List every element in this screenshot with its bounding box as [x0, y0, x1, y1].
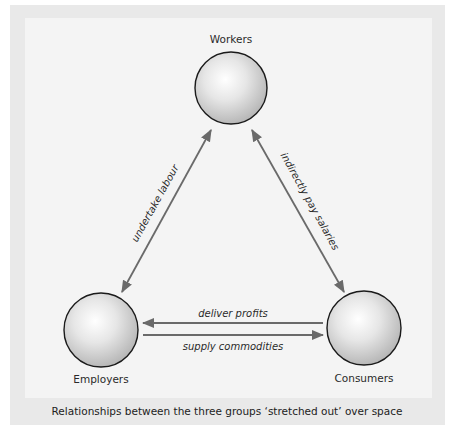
figure-caption: Relationships between the three groups ‘… [52, 405, 403, 417]
edge-label-supply-commodities: supply commodities [183, 341, 284, 352]
node-label-consumers: Consumers [334, 372, 393, 384]
node-employers-circle [64, 293, 138, 367]
node-label-workers: Workers [210, 33, 252, 45]
node-consumers-circle [327, 291, 401, 365]
edge-label-deliver-profits: deliver profits [198, 308, 268, 319]
node-label-employers: Employers [73, 373, 128, 385]
relationship-diagram: undertake labour indirectly pay salaries… [0, 0, 453, 441]
node-workers-circle [195, 52, 267, 124]
